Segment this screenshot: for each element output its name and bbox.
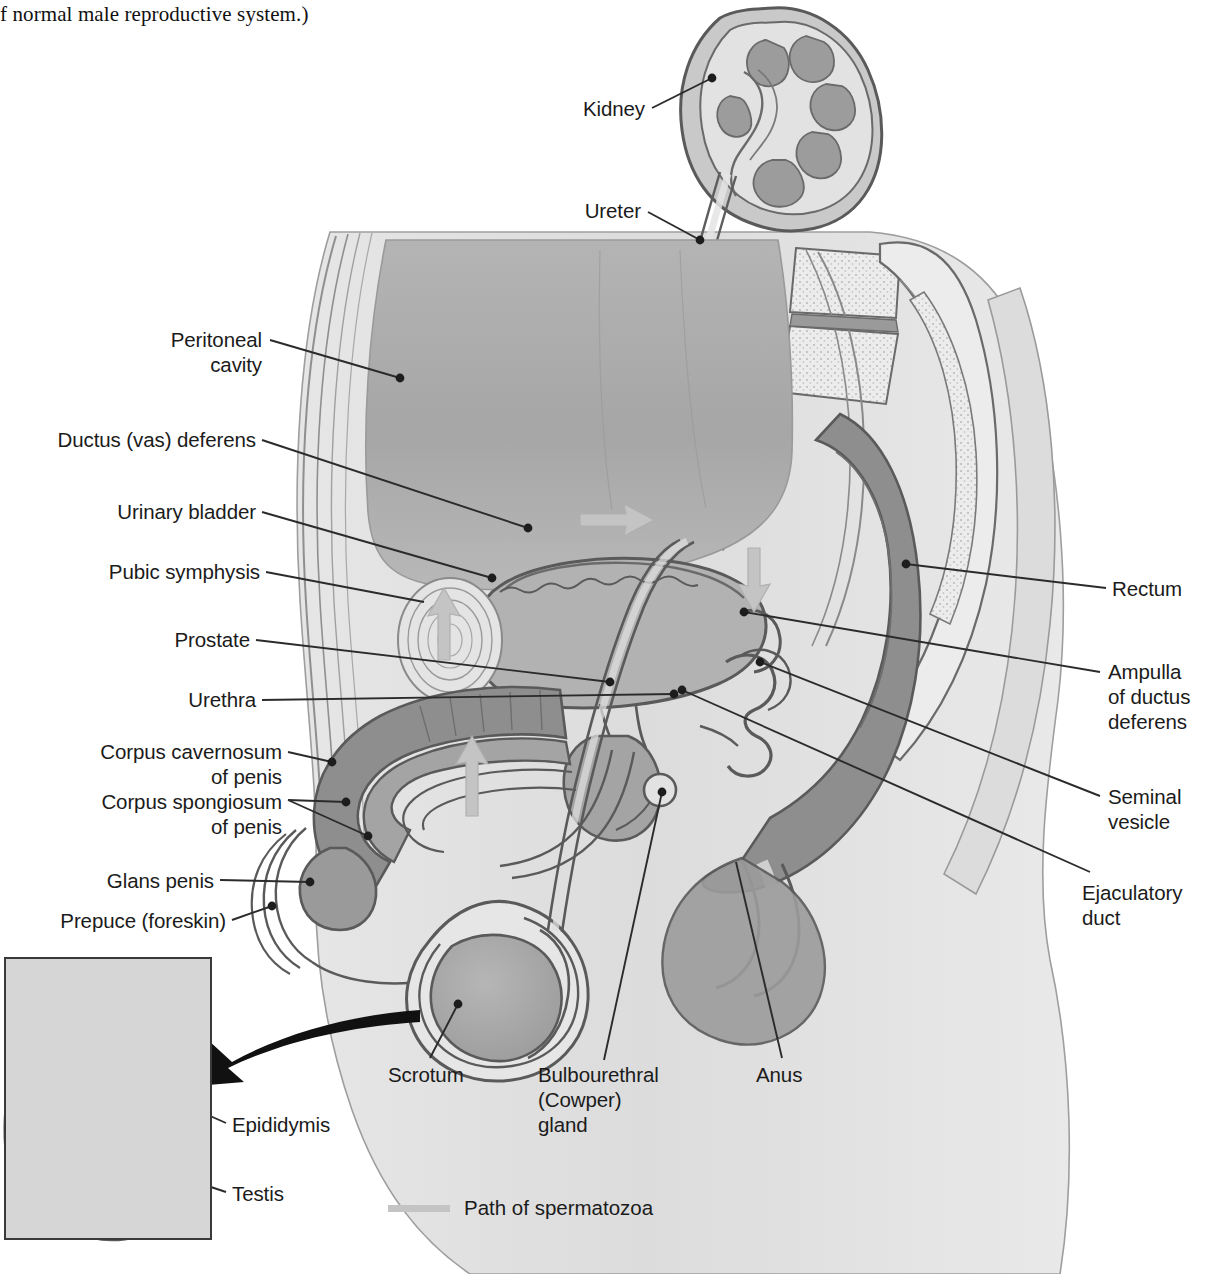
label-kidney: Kidney <box>455 96 645 121</box>
label-pubic-symphysis: Pubic symphysis <box>60 559 260 584</box>
label-urethra: Urethra <box>60 687 256 712</box>
label-anus: Anus <box>756 1062 856 1087</box>
kidney <box>681 8 882 231</box>
sperm-path-swatch <box>388 1205 450 1212</box>
label-ampulla-of-ductus-deferens: Ampulla of ductus deferens <box>1108 659 1205 734</box>
label-prepuce: Prepuce (foreskin) <box>0 908 226 933</box>
label-corpus-spongiosum: Corpus spongiosum of penis <box>20 789 282 839</box>
inset-frame <box>4 957 212 1240</box>
label-bulbourethral-gland: Bulbourethral (Cowper) gland <box>538 1062 718 1137</box>
peritoneal-cavity <box>366 240 793 590</box>
legend: Path of spermatozoa <box>388 1196 653 1220</box>
label-ejaculatory-duct: Ejaculatory duct <box>1082 880 1205 930</box>
label-ductus-vas-deferens: Ductus (vas) deferens <box>10 427 256 452</box>
label-scrotum: Scrotum <box>388 1062 528 1087</box>
label-seminal-vesicle: Seminal vesicle <box>1108 784 1205 834</box>
label-epididymis: Epididymis <box>232 1112 392 1137</box>
label-prostate: Prostate <box>60 627 250 652</box>
label-testis: Testis <box>232 1181 352 1206</box>
label-rectum: Rectum <box>1112 576 1205 601</box>
legend-label: Path of spermatozoa <box>464 1196 653 1220</box>
label-corpus-cavernosum: Corpus cavernosum of penis <box>20 739 282 789</box>
label-glans-penis: Glans penis <box>20 868 214 893</box>
testis <box>431 935 562 1061</box>
label-peritoneal-cavity: Peritoneal cavity <box>70 327 262 377</box>
label-urinary-bladder: Urinary bladder <box>60 499 256 524</box>
label-ureter: Ureter <box>455 198 641 223</box>
